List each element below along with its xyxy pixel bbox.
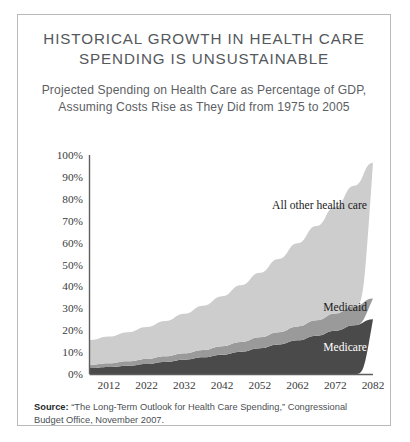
source-note: Source: “The Long-Term Outlook for Healt…	[34, 401, 376, 426]
x-axis-tick-label: 2072	[324, 379, 347, 391]
x-axis-tick-labels: 20122022203220422052206220722082	[98, 379, 385, 391]
x-axis-tick-label: 2062	[286, 379, 309, 391]
x-axis-tick-label: 2082	[362, 379, 385, 391]
page-title: HISTORICAL GROWTH IN HEALTH CARE SPENDIN…	[34, 29, 374, 69]
y-axis-tick-label: 30%	[62, 302, 83, 314]
chart-plot-area: 0%10%20%30%40%50%60%70%80%90%100% 201220…	[18, 141, 390, 393]
x-axis-tick-label: 2042	[211, 379, 234, 391]
y-axis-tick-label: 10%	[62, 346, 83, 358]
y-axis-tick-label: 90%	[62, 171, 83, 183]
source-label: Source:	[34, 402, 69, 412]
series-label-all-other-health-care: All other health care	[272, 199, 367, 212]
source-text: “The Long-Term Outlook for Health Care S…	[34, 402, 347, 425]
x-axis-tick-label: 2022	[135, 379, 158, 391]
x-axis-tick-label: 2012	[98, 379, 121, 391]
chart-subtitle: Projected Spending on Health Care as Per…	[34, 82, 374, 116]
y-axis-tick-label: 70%	[62, 215, 83, 227]
figure-panel: HISTORICAL GROWTH IN HEALTH CARE SPENDIN…	[17, 14, 391, 426]
title-block: HISTORICAL GROWTH IN HEALTH CARE SPENDIN…	[18, 15, 390, 116]
y-axis-tick-label: 20%	[62, 324, 83, 336]
x-axis-tick-label: 2032	[173, 379, 196, 391]
stacked-area-chart: 0%10%20%30%40%50%60%70%80%90%100% 201220…	[18, 141, 390, 393]
y-axis-tick-label: 0%	[68, 368, 84, 380]
series-label-medicaid: Medicaid	[323, 301, 367, 314]
x-axis-tick-label: 2052	[249, 379, 272, 391]
y-axis-tick-label: 100%	[57, 149, 84, 161]
series-label-medicare: Medicare	[323, 341, 367, 354]
y-axis-tick-labels: 0%10%20%30%40%50%60%70%80%90%100%	[57, 149, 84, 380]
y-axis-tick-label: 40%	[62, 280, 83, 292]
y-axis-tick-label: 60%	[62, 237, 83, 249]
y-axis-tick-label: 80%	[62, 193, 83, 205]
y-axis-tick-label: 50%	[62, 259, 83, 271]
